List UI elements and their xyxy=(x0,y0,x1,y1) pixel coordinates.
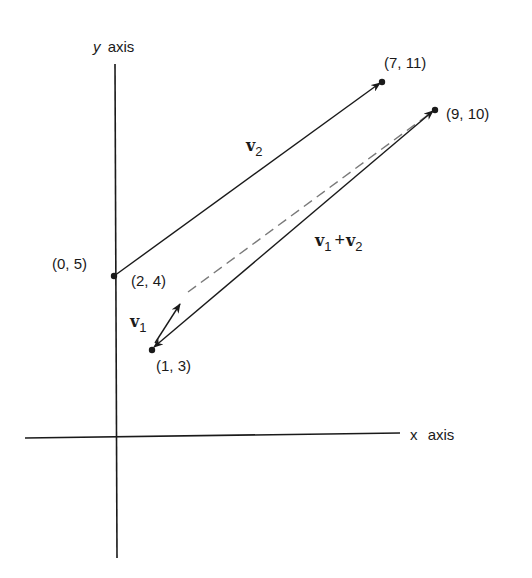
y-axis-label: y axis xyxy=(92,38,134,55)
point-9-10 xyxy=(432,107,438,113)
vector-diagram: y axis x axis (0, 5) (2, 4) (1, 3) (7, 1… xyxy=(0,0,532,578)
point-7-11 xyxy=(379,79,385,85)
label-point-7-11: (7, 11) xyxy=(384,54,426,71)
label-point-2-4: (2, 4) xyxy=(131,272,166,289)
point-1-3 xyxy=(149,347,155,353)
label-point-1-3: (1, 3) xyxy=(156,357,191,374)
x-axis xyxy=(25,433,400,438)
label-point-0-5: (0, 5) xyxy=(52,255,87,272)
vector-v1 xyxy=(155,304,180,343)
x-axis-label: x axis xyxy=(410,426,454,443)
label-point-9-10: (9, 10) xyxy=(446,105,489,122)
label-v1: v1 xyxy=(129,312,147,335)
label-v2: v2 xyxy=(245,136,263,159)
y-axis xyxy=(115,64,117,558)
dashed-translated-v2 xyxy=(188,112,432,292)
point-0-5 xyxy=(111,273,117,279)
label-v1-plus-v2: v1+v2 xyxy=(314,230,363,254)
